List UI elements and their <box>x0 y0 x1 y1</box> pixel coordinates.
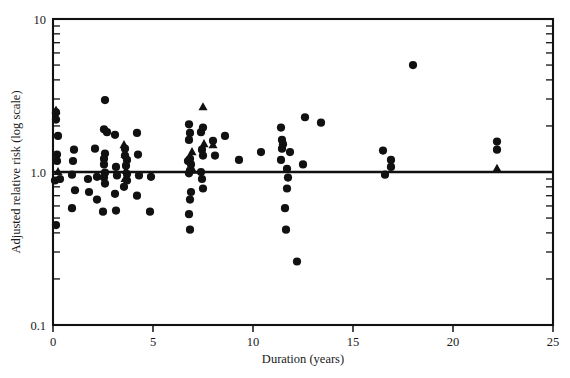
data-point-circle-9 <box>70 146 78 154</box>
data-point-circle-66 <box>211 152 219 160</box>
y-tick-label-0.1: 0.1 <box>30 319 46 333</box>
data-point-circle-73 <box>278 145 286 153</box>
data-point-circle-6 <box>56 175 64 183</box>
data-point-circle-2 <box>54 132 62 140</box>
data-point-circle-4 <box>53 157 61 165</box>
data-point-circle-42 <box>135 171 143 179</box>
data-point-circle-81 <box>293 257 301 265</box>
data-point-circle-64 <box>199 184 207 192</box>
data-point-circle-74 <box>277 156 285 164</box>
y-axis-minor-ticks <box>53 26 553 279</box>
y-tick-label-10: 10 <box>34 13 47 27</box>
data-point-circle-57 <box>186 226 194 234</box>
scatter-plot: 0510152025 10 1.0 0.1 Duration (years) A… <box>0 0 570 378</box>
data-point-circle-48 <box>185 136 193 144</box>
data-point-circle-11 <box>71 186 79 194</box>
x-tick-label-25: 25 <box>547 335 560 349</box>
x-axis-tick-labels: 0510152025 <box>50 335 559 349</box>
data-point-circle-28 <box>111 131 119 139</box>
data-point-circle-32 <box>112 206 120 214</box>
data-point-circle-10 <box>69 157 77 165</box>
data-point-circle-7 <box>52 221 60 229</box>
data-point-circle-55 <box>186 196 194 204</box>
data-point-circle-54 <box>187 188 195 196</box>
x-tick-label-10: 10 <box>247 335 260 349</box>
data-point-triangle-2 <box>120 140 129 148</box>
data-point-circle-44 <box>147 173 155 181</box>
data-point-triangle-11 <box>493 164 502 172</box>
data-point-circle-47 <box>186 129 194 137</box>
data-series-triangle <box>52 102 502 182</box>
data-point-triangle-9 <box>200 139 209 147</box>
data-point-circle-15 <box>91 145 99 153</box>
data-point-circle-56 <box>185 210 193 218</box>
chart-figure: 0510152025 10 1.0 0.1 Duration (years) A… <box>0 0 570 378</box>
data-point-circle-76 <box>283 165 291 173</box>
data-point-circle-88 <box>381 171 389 179</box>
data-point-circle-23 <box>100 160 108 168</box>
data-point-circle-80 <box>282 226 290 234</box>
data-point-circle-78 <box>283 184 291 192</box>
x-axis-title: Duration (years) <box>262 352 344 366</box>
x-tick-label-0: 0 <box>50 335 56 349</box>
data-point-circle-89 <box>409 61 417 69</box>
data-point-circle-16 <box>93 173 101 181</box>
data-point-circle-13 <box>84 175 92 183</box>
data-point-circle-63 <box>198 175 206 183</box>
data-point-circle-83 <box>299 160 307 168</box>
data-point-circle-91 <box>493 146 501 154</box>
data-point-circle-29 <box>112 163 120 171</box>
data-series-circle <box>51 61 501 266</box>
x-tick-label-5: 5 <box>150 335 156 349</box>
y-axis-title: Adjusted relative risk (log scale) <box>9 90 23 253</box>
data-point-circle-26 <box>101 179 109 187</box>
data-point-circle-43 <box>133 192 141 200</box>
data-point-circle-70 <box>277 124 285 132</box>
data-point-circle-18 <box>101 96 109 104</box>
data-point-circle-8 <box>68 171 76 179</box>
data-point-circle-30 <box>113 171 121 179</box>
data-point-circle-31 <box>111 190 119 198</box>
data-point-circle-77 <box>284 173 292 181</box>
data-point-circle-12 <box>68 204 76 212</box>
y-tick-label-1: 1.0 <box>30 166 46 180</box>
x-tick-label-20: 20 <box>447 335 460 349</box>
data-point-circle-39 <box>120 183 128 191</box>
data-point-circle-84 <box>317 119 325 127</box>
data-point-circle-41 <box>134 150 142 158</box>
data-point-triangle-8 <box>199 102 208 110</box>
data-point-circle-59 <box>199 124 207 132</box>
data-point-circle-79 <box>281 204 289 212</box>
data-point-circle-20 <box>103 128 111 136</box>
data-point-circle-17 <box>93 196 101 204</box>
data-point-circle-90 <box>493 138 501 146</box>
data-point-circle-46 <box>185 120 193 128</box>
data-point-circle-86 <box>387 156 395 164</box>
data-point-circle-67 <box>221 132 229 140</box>
data-point-circle-1 <box>52 116 60 124</box>
data-point-circle-85 <box>379 147 387 155</box>
data-point-circle-69 <box>257 148 265 156</box>
data-point-circle-62 <box>197 168 205 176</box>
data-point-circle-87 <box>387 163 395 171</box>
data-point-triangle-6 <box>188 147 197 155</box>
data-point-circle-14 <box>85 188 93 196</box>
x-tick-label-15: 15 <box>347 335 360 349</box>
data-point-circle-68 <box>235 156 243 164</box>
data-point-circle-61 <box>199 152 207 160</box>
data-point-circle-40 <box>133 129 141 137</box>
data-point-circle-45 <box>146 208 154 216</box>
data-point-circle-75 <box>286 148 294 156</box>
data-point-circle-82 <box>301 113 309 121</box>
data-point-circle-27 <box>99 208 107 216</box>
